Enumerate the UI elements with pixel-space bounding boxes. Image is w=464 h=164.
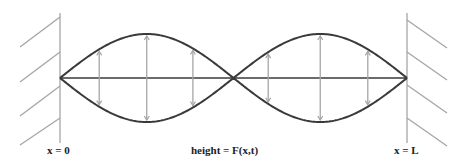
lower-wave-envelope	[60, 78, 407, 122]
left-fixed-wall	[20, 13, 60, 145]
right-wall-hatch	[407, 52, 447, 80]
right-wall-hatch	[407, 118, 447, 146]
standing-wave-diagram	[0, 0, 464, 164]
left-wall-hatch	[20, 86, 60, 116]
upper-wave-envelope	[60, 34, 407, 78]
right-boundary-label: x = L	[394, 144, 419, 156]
left-wall-hatch	[20, 17, 60, 47]
left-boundary-label: x = 0	[47, 144, 70, 156]
left-wall-hatch	[20, 118, 60, 145]
height-function-label: height = F(x,t)	[191, 144, 258, 156]
left-wall-hatch	[20, 52, 60, 82]
right-wall-hatch	[407, 20, 447, 48]
right-fixed-wall	[407, 13, 447, 146]
right-wall-hatch	[407, 85, 447, 113]
